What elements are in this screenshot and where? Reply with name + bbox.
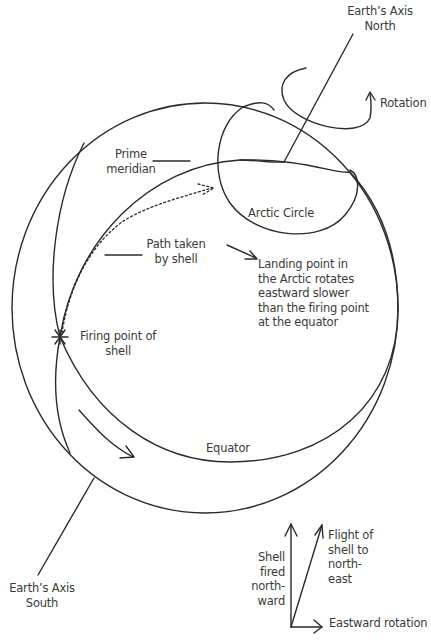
label-eastward-rotation: Eastward rotation (329, 616, 427, 631)
earth-axis-south-line (38, 478, 94, 575)
equator-rotation-arrow (79, 410, 133, 457)
coriolis-diagram: Earth’s Axis North Rotation Prime meridi… (0, 0, 431, 640)
label-flight-of-shell: Flight of shell to north- east (328, 528, 373, 586)
label-axis-south: Earth’s Axis South (2, 581, 82, 610)
label-equator: Equator (206, 441, 250, 456)
prime-meridian-curve (53, 143, 84, 453)
landing-point-arrow (227, 245, 256, 258)
label-prime-meridian: Prime meridian (98, 147, 164, 176)
label-path-taken: Path taken by shell (136, 237, 216, 266)
vector-northeast (291, 525, 322, 627)
label-rotation: Rotation (380, 96, 427, 111)
rotation-arrow (282, 68, 371, 129)
shell-path-arrowhead (198, 184, 214, 195)
label-axis-north: Earth’s Axis North (335, 4, 425, 33)
label-arctic-circle: Arctic Circle (248, 206, 314, 221)
label-shell-fired: Shell fired north- ward (240, 550, 285, 608)
label-firing-point: Firing point of shell (74, 329, 162, 358)
label-landing-point: Landing point in the Arctic rotates east… (258, 257, 369, 330)
firing-point-star-icon (52, 330, 68, 344)
arctic-circle-top (243, 103, 274, 110)
